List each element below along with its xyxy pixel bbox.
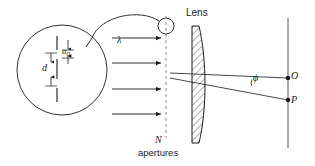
callout-source-circle bbox=[158, 18, 174, 34]
focal-point-P-dot bbox=[286, 98, 291, 103]
phi-angle-label: ϕ bbox=[253, 73, 258, 83]
aperture-count-unit-label: apertures bbox=[138, 148, 178, 158]
aperture-count-label: N bbox=[155, 135, 162, 145]
optics-diffraction-diagram: λ a0 d Lens ϕ O P N apertures bbox=[0, 0, 315, 166]
magnified-inset-circle bbox=[17, 25, 107, 115]
magnifier-callout-leader bbox=[92, 15, 159, 38]
focal-point-O-dot bbox=[286, 76, 291, 81]
axis-ray-to-O bbox=[170, 73, 288, 78]
magnifier-callout-leader-tail bbox=[86, 38, 92, 47]
focal-point-O-label: O bbox=[291, 71, 298, 81]
tilted-ray-to-P bbox=[170, 78, 288, 100]
lens-label: Lens bbox=[186, 8, 208, 18]
aperture-spacing-label: d bbox=[42, 63, 47, 73]
wavelength-label: λ bbox=[117, 35, 121, 45]
phi-angle-arc bbox=[251, 80, 252, 87]
aperture-width-subscript: 0 bbox=[67, 50, 70, 57]
focal-point-P-label: P bbox=[291, 95, 297, 105]
aperture-width-label: a0 bbox=[62, 47, 70, 57]
plane-wave-arrows bbox=[112, 38, 161, 114]
